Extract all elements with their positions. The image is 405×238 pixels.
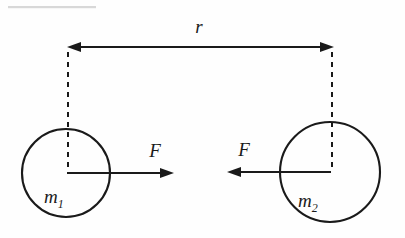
force-right-label: F bbox=[237, 139, 250, 160]
mass-2-label: m2 bbox=[298, 190, 318, 215]
mass-1-subscript: 1 bbox=[58, 197, 64, 211]
mass-2-symbol: m bbox=[298, 190, 312, 211]
force-arrow-left-head bbox=[160, 168, 174, 178]
force-arrow-right-group bbox=[227, 167, 331, 177]
mass-1-symbol: m bbox=[44, 186, 58, 207]
distance-dimension-group bbox=[67, 42, 334, 52]
distance-label: r bbox=[195, 16, 203, 37]
mass-1-label: m1 bbox=[44, 186, 64, 211]
gravitation-figure: r F F m1 m2 bbox=[0, 0, 405, 238]
mass-2-subscript: 2 bbox=[312, 201, 318, 215]
force-arrow-right-head bbox=[227, 167, 241, 177]
force-arrow-left-group bbox=[67, 168, 174, 178]
figure-canvas: r F F m1 m2 bbox=[0, 0, 405, 238]
scan-edge-artifact bbox=[8, 6, 96, 8]
distance-arrowhead-left bbox=[67, 42, 81, 52]
force-left-label: F bbox=[148, 140, 161, 161]
distance-arrowhead-right bbox=[320, 42, 334, 52]
